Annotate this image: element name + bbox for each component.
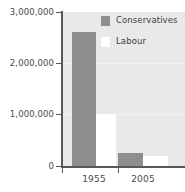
labour-swatch-icon [101,37,110,47]
y-axis-label-3000000: 3,000,000 [10,7,54,17]
legend-label-labour: Labour [116,36,146,47]
legend-label-conservatives: Conservatives [116,15,178,26]
x-axis-line [61,166,185,168]
y-tick-2000000 [56,63,62,64]
y-axis-label-1000000: 1,000,000 [10,109,54,119]
x-axis-label-1955: 1955 [72,174,116,184]
conservatives-swatch-icon [101,16,110,26]
bar-conservatives-1955 [72,32,96,166]
bar-labour-2005 [143,156,168,166]
y-axis-label-2000000: 2,000,000 [10,58,54,68]
x-tick-mid [118,168,119,173]
y-tick-3000000 [56,12,62,13]
y-tick-0 [56,166,62,167]
bar-conservatives-2005 [118,153,143,166]
x-tick-start [62,168,63,173]
y-axis-line [61,11,63,167]
y-tick-1000000 [56,114,62,115]
bar-labour-1955 [96,114,116,166]
bar-chart: 3,000,000 2,000,000 1,000,000 0 1955 200… [0,0,185,192]
x-axis-label-2005: 2005 [118,174,168,184]
y-axis-label-0: 0 [48,161,54,171]
